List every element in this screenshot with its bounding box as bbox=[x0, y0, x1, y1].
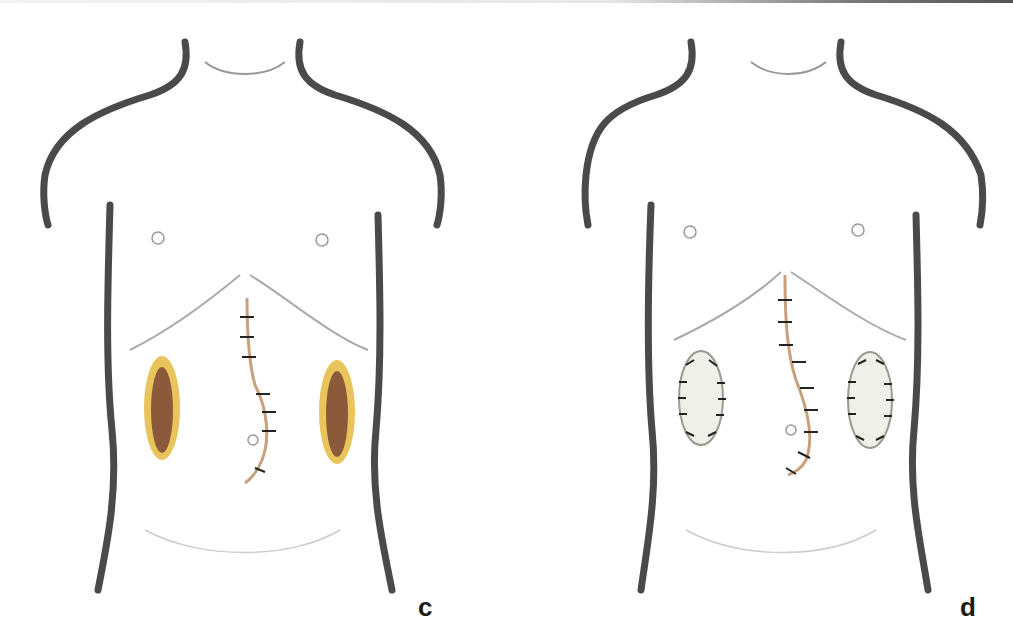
suture-marks bbox=[240, 317, 276, 472]
open-wound-left bbox=[144, 356, 180, 460]
nipple-icon bbox=[684, 224, 864, 238]
panel-c: c bbox=[0, 0, 506, 639]
midline-incision bbox=[785, 275, 810, 475]
midline-incision bbox=[245, 298, 267, 483]
panel-label-c: c bbox=[418, 592, 432, 623]
sutured-wound-right bbox=[847, 352, 894, 448]
torso-drawing-c bbox=[0, 0, 506, 639]
sutured-wound-left bbox=[678, 351, 726, 445]
open-wound-right bbox=[319, 360, 355, 464]
umbilicus-icon bbox=[786, 425, 796, 435]
panel-label-d: d bbox=[960, 592, 976, 623]
panel-d: d bbox=[506, 0, 1012, 639]
umbilicus-icon bbox=[248, 435, 258, 445]
nipple-icon bbox=[152, 232, 328, 246]
torso-drawing-d bbox=[506, 0, 1012, 639]
